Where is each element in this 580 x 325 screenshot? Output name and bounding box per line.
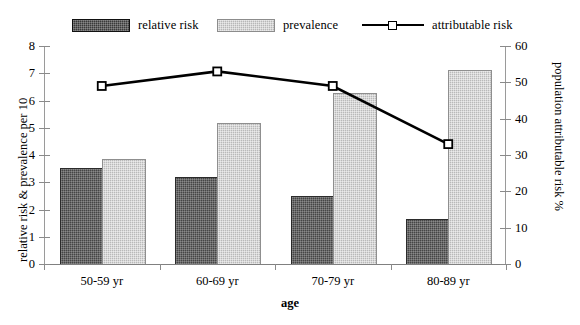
left-tick-mark <box>39 128 50 129</box>
right-tick-mark <box>500 228 511 229</box>
right-tick-mark <box>500 119 511 120</box>
bar-relative-risk <box>291 196 335 264</box>
attributable-risk-line <box>102 71 449 144</box>
left-tick-mark <box>39 101 50 102</box>
left-tick-mark <box>39 46 50 47</box>
right-tick-label: 60 <box>515 40 528 53</box>
y-axis-title-left: relative risk & prevalence per 10 <box>16 98 31 262</box>
left-tick-label: 8 <box>29 40 35 53</box>
right-tick-mark <box>500 191 511 192</box>
legend-item-attributable-risk: attributable risk <box>362 14 513 36</box>
right-tick-label: 40 <box>515 112 528 125</box>
x-axis-title: age <box>0 296 580 311</box>
x-category-label: 60-69 yr <box>196 274 239 289</box>
bar-prevalence <box>217 123 261 264</box>
attributable-risk-marker <box>213 67 221 75</box>
bar-relative-risk <box>60 168 104 264</box>
x-tick-mark <box>160 264 161 270</box>
bar-prevalence <box>333 93 377 264</box>
x-category-label: 80-89 yr <box>427 274 470 289</box>
right-tick-mark <box>500 82 511 83</box>
legend-label-relative-risk: relative risk <box>138 18 199 33</box>
x-tick-mark <box>275 264 276 270</box>
attributable-risk-marker <box>98 82 106 90</box>
right-tick-label: 10 <box>515 221 528 234</box>
legend-label-prevalence: prevalence <box>283 18 338 33</box>
left-tick-mark <box>39 237 50 238</box>
y-axis-title-right: population attributable risk % <box>551 62 566 211</box>
right-tick-label: 30 <box>515 149 528 162</box>
line-square-marker-icon <box>362 19 424 31</box>
left-tick-mark <box>39 155 50 156</box>
x-tick-mark <box>44 264 45 270</box>
plot-area: 012345678 0102030405060 50-59 yr60-69 yr… <box>44 46 506 264</box>
legend-item-relative-risk: relative risk <box>72 14 199 36</box>
bar-prevalence <box>102 159 146 264</box>
left-tick-label: 7 <box>29 67 35 80</box>
x-tick-mark <box>506 264 507 270</box>
legend-item-prevalence: prevalence <box>217 14 338 36</box>
chart-figure: relative risk prevalence attributable ri… <box>0 0 580 325</box>
left-tick-mark <box>39 210 50 211</box>
x-category-label: 70-79 yr <box>311 274 354 289</box>
left-tick-mark <box>39 182 50 183</box>
chart-legend: relative risk prevalence attributable ri… <box>72 14 512 36</box>
bar-relative-risk <box>406 219 450 264</box>
dark-hatch-swatch-icon <box>72 19 130 32</box>
right-tick-mark <box>500 46 511 47</box>
x-category-label: 50-59 yr <box>80 274 123 289</box>
right-tick-mark <box>500 155 511 156</box>
x-tick-mark <box>391 264 392 270</box>
light-hatch-swatch-icon <box>217 19 275 32</box>
attributable-risk-marker <box>329 82 337 90</box>
right-tick-label: 20 <box>515 185 528 198</box>
right-tick-label: 50 <box>515 76 528 89</box>
bar-relative-risk <box>175 177 219 264</box>
legend-label-attributable-risk: attributable risk <box>432 18 513 33</box>
bar-prevalence <box>448 70 492 264</box>
left-tick-mark <box>39 73 50 74</box>
right-tick-label: 0 <box>515 258 521 271</box>
